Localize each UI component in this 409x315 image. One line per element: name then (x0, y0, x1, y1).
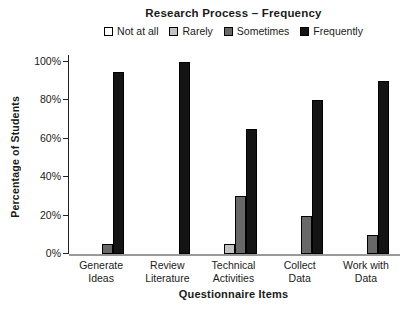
legend-swatch-frequently (300, 27, 309, 36)
x-label-line: Activities (200, 272, 266, 285)
legend-swatch-sometimes (224, 27, 233, 36)
bar-group-collect-data (268, 55, 334, 254)
bar-group-work-with-data (334, 55, 400, 254)
y-tick-label: 80% (0, 93, 61, 105)
x-label-line: Data (333, 272, 399, 285)
bar-frequently-technical-activities (246, 129, 257, 254)
legend-label: Not at all (117, 25, 158, 37)
legend-swatch-not-at-all (104, 27, 113, 36)
x-label-collect-data: CollectData (267, 259, 333, 285)
x-label-review-literature: ReviewLiterature (134, 259, 200, 285)
bar-frequently-generate-ideas (113, 72, 124, 254)
x-label-line: Data (267, 272, 333, 285)
x-axis-title: Questionnaire Items (68, 288, 399, 300)
legend-item-not-at-all: Not at all (104, 25, 158, 37)
chart-title: Research Process – Frequency (68, 7, 399, 19)
legend-item-rarely: Rarely (169, 25, 212, 37)
bar-sometimes-work-with-data (367, 235, 378, 254)
y-tick-mark (63, 138, 68, 139)
x-label-line: Ideas (68, 272, 134, 285)
legend: Not at allRarelySometimesFrequently (68, 25, 399, 37)
y-tick-label: 0% (0, 247, 61, 259)
bar-group-generate-ideas (69, 55, 135, 254)
bar-sometimes-collect-data (301, 216, 312, 254)
bar-frequently-work-with-data (378, 81, 389, 254)
y-tick-mark (63, 61, 68, 62)
y-tick-mark (63, 215, 68, 216)
y-tick-mark (63, 253, 68, 254)
y-tick-mark (63, 99, 68, 100)
x-label-technical-activities: TechnicalActivities (200, 259, 266, 285)
bar-sometimes-generate-ideas (102, 244, 113, 254)
chart-figure: Research Process – Frequency Not at allR… (0, 0, 409, 315)
y-tick-label: 100% (0, 55, 61, 67)
y-tick-mark (63, 176, 68, 177)
bar-frequently-collect-data (312, 100, 323, 254)
x-label-generate-ideas: GenerateIdeas (68, 259, 134, 285)
x-label-line: Work with (333, 259, 399, 272)
x-label-line: Review (134, 259, 200, 272)
y-axis-tick-labels: 0%20%40%60%80%100% (0, 55, 61, 254)
x-label-line: Collect (267, 259, 333, 272)
x-label-line: Literature (134, 272, 200, 285)
bar-group-technical-activities (201, 55, 267, 254)
legend-item-frequently: Frequently (300, 25, 363, 37)
x-axis-labels: GenerateIdeasReviewLiteratureTechnicalAc… (68, 259, 399, 285)
bar-frequently-review-literature (179, 62, 190, 254)
bar-rarely-technical-activities (224, 244, 235, 254)
bar-sometimes-technical-activities (235, 196, 246, 254)
y-tick-label: 40% (0, 170, 61, 182)
legend-item-sometimes: Sometimes (224, 25, 290, 37)
x-label-line: Technical (200, 259, 266, 272)
legend-label: Sometimes (237, 25, 290, 37)
legend-label: Rarely (182, 25, 212, 37)
legend-label: Frequently (313, 25, 363, 37)
x-label-work-with-data: Work withData (333, 259, 399, 285)
legend-swatch-rarely (169, 27, 178, 36)
x-label-line: Generate (68, 259, 134, 272)
y-tick-label: 20% (0, 209, 61, 221)
bar-group-review-literature (135, 55, 201, 254)
plot-area (68, 55, 400, 254)
y-tick-label: 60% (0, 132, 61, 144)
